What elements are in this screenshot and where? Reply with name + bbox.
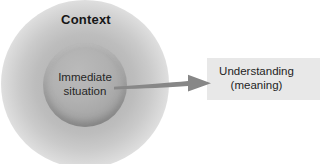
context-label: Context — [0, 12, 172, 27]
immediate-situation-line1: Immediate — [58, 70, 112, 84]
context-understanding-diagram: Context Immediate situation Understandin… — [0, 0, 336, 164]
immediate-situation-line2: situation — [58, 84, 112, 98]
understanding-line2: (meaning) — [219, 78, 294, 93]
understanding-box-label: Understanding (meaning) — [219, 64, 308, 95]
immediate-situation-circle: Immediate situation — [43, 43, 127, 127]
understanding-line1: Understanding — [219, 64, 294, 79]
immediate-situation-label: Immediate situation — [58, 70, 112, 101]
understanding-box: Understanding (meaning) — [207, 58, 320, 100]
